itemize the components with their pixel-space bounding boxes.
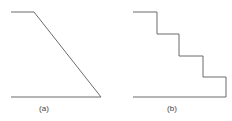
figure: (a) (b) xyxy=(0,0,232,121)
staircase-profile xyxy=(133,12,226,97)
panel-b-label: (b) xyxy=(167,104,177,113)
ramp-profile xyxy=(11,12,101,97)
panel-b: (b) xyxy=(133,12,226,113)
panel-a: (a) xyxy=(11,12,101,113)
panel-a-label: (a) xyxy=(39,104,49,113)
